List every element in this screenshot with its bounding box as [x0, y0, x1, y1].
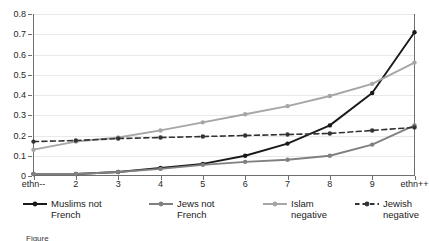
data-point — [328, 123, 332, 127]
legend-item[interactable]: Jewish negative — [354, 198, 419, 220]
x-tick-mark — [203, 176, 204, 180]
line-solid-dark-icon — [22, 198, 48, 209]
x-axis: ethn--23456789ethn++ — [33, 179, 415, 193]
legend-item[interactable]: Islam negative — [262, 198, 327, 220]
x-tick-label: 3 — [116, 179, 121, 190]
y-tick-mark — [28, 156, 32, 157]
x-tick-label: 2 — [73, 179, 78, 190]
data-point — [328, 131, 332, 135]
y-tick-mark — [28, 34, 32, 35]
caption-text: Figure — [0, 234, 426, 241]
legend-item[interactable]: Jews not French — [148, 198, 215, 220]
y-tick-label: 0.8 — [13, 10, 26, 19]
x-tick-mark — [118, 176, 119, 180]
y-tick-mark — [28, 95, 32, 96]
x-tick-label: 7 — [285, 179, 290, 190]
line-solid-gray-icon — [148, 198, 174, 209]
series-line — [34, 125, 415, 174]
series-3 — [31, 60, 416, 151]
y-tick-label: 0.4 — [13, 91, 26, 100]
data-point — [158, 167, 162, 171]
x-tick-label: 9 — [370, 179, 375, 190]
legend-label: Jewish negative — [383, 198, 419, 220]
data-point — [31, 147, 35, 151]
data-point — [285, 141, 289, 145]
y-tick-mark — [28, 115, 32, 116]
chart-legend: Muslims not FrenchJews not FrenchIslam n… — [0, 198, 426, 232]
data-point — [116, 170, 120, 174]
y-axis: 00.10.20.30.40.50.60.70.8 — [0, 14, 31, 176]
data-point — [370, 142, 374, 146]
x-tick-mark — [34, 176, 35, 180]
data-point — [370, 82, 374, 86]
x-tick-mark — [76, 176, 77, 180]
data-point — [201, 163, 205, 167]
series-layer — [33, 14, 415, 176]
y-tick-label: 0.2 — [13, 131, 26, 140]
x-tick-mark — [330, 176, 331, 180]
x-tick-mark — [288, 176, 289, 180]
data-point — [285, 104, 289, 108]
x-tick-label: 6 — [243, 179, 248, 190]
x-tick-label: 5 — [200, 179, 205, 190]
y-tick-label: 0.6 — [13, 50, 26, 59]
x-tick-label: ethn-- — [22, 179, 46, 190]
data-point — [243, 160, 247, 164]
x-tick-label: 4 — [158, 179, 163, 190]
legend-label: Jews not French — [177, 198, 215, 220]
data-point — [370, 91, 374, 95]
data-point — [243, 112, 247, 116]
y-tick-mark — [28, 176, 32, 177]
y-tick-label: 0.7 — [13, 30, 26, 39]
legend-label: Muslims not French — [51, 198, 102, 220]
legend-label: Islam negative — [291, 198, 327, 220]
y-tick-mark — [28, 55, 32, 56]
data-point — [412, 60, 416, 64]
data-point — [412, 125, 416, 129]
data-point — [285, 158, 289, 162]
y-tick-label: 0.1 — [13, 151, 26, 160]
line-dashed-dark-icon — [354, 198, 380, 209]
line-solid-light-icon — [262, 198, 288, 209]
y-tick-mark — [28, 136, 32, 137]
data-point — [285, 132, 289, 136]
y-tick-label: 0.3 — [13, 111, 26, 120]
x-tick-label: 8 — [327, 179, 332, 190]
x-tick-mark — [415, 176, 416, 180]
data-point — [158, 128, 162, 132]
data-point — [412, 30, 416, 34]
data-point — [201, 120, 205, 124]
data-point — [328, 94, 332, 98]
data-point — [74, 138, 78, 142]
x-tick-mark — [245, 176, 246, 180]
series-line — [34, 32, 415, 174]
y-tick-mark — [28, 75, 32, 76]
data-point — [370, 128, 374, 132]
data-point — [243, 133, 247, 137]
data-point — [158, 135, 162, 139]
x-tick-label: ethn++ — [400, 179, 428, 190]
data-point — [116, 136, 120, 140]
series-1 — [31, 30, 416, 176]
x-tick-mark — [372, 176, 373, 180]
legend-item[interactable]: Muslims not French — [22, 198, 102, 220]
data-point — [31, 139, 35, 143]
y-tick-label: 0.5 — [13, 70, 26, 79]
y-tick-mark — [28, 14, 32, 15]
x-tick-mark — [161, 176, 162, 180]
data-point — [328, 154, 332, 158]
data-point — [201, 134, 205, 138]
data-point — [243, 154, 247, 158]
figure-caption: Figure — [0, 234, 426, 241]
